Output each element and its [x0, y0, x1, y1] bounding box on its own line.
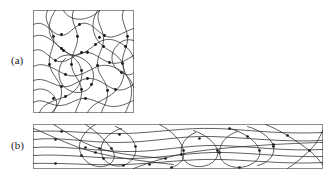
crosslink-node [170, 166, 173, 169]
crosslink-node [216, 149, 219, 152]
crosslink-node [86, 51, 89, 54]
crosslink-node [84, 97, 87, 100]
crosslink-node [60, 130, 63, 133]
crosslink-node [164, 157, 167, 160]
crosslink-node [64, 73, 67, 76]
crosslink-node [96, 64, 99, 67]
crosslink-node [52, 97, 55, 100]
crosslink-node [60, 85, 63, 88]
crosslink-node [94, 43, 97, 46]
crosslink-node [110, 147, 113, 150]
crosslink-node [54, 59, 57, 62]
crosslink-node [52, 35, 55, 38]
crosslink-node [182, 149, 185, 152]
figure-root: (a) (b) [0, 0, 333, 178]
crosslink-node [80, 69, 83, 72]
crosslink-node [198, 137, 201, 140]
crosslink-node [80, 51, 83, 54]
crosslink-node [238, 166, 241, 169]
crosslink-node [103, 34, 106, 37]
crosslink-node [124, 45, 127, 48]
crosslink-node [102, 157, 105, 160]
crosslink-node [80, 88, 83, 91]
crosslink-node [120, 71, 123, 74]
crosslink-node [108, 61, 111, 64]
crosslink-node [60, 47, 63, 50]
crosslink-node [60, 33, 63, 36]
crosslink-node [118, 133, 121, 136]
crosslink-node [121, 62, 124, 65]
crosslink-node [102, 45, 105, 48]
crosslink-node [86, 77, 89, 80]
crosslink-node [84, 146, 87, 149]
crosslink-node [126, 35, 129, 38]
crosslink-node [180, 153, 183, 156]
crosslink-node [54, 162, 57, 165]
crosslink-node [94, 151, 97, 154]
crosslink-node [64, 95, 67, 98]
panel-b-label: (b) [11, 140, 24, 151]
crosslink-node [106, 89, 109, 92]
panel-a-network-plot [33, 10, 134, 113]
crosslink-node [218, 151, 221, 154]
crosslink-node [122, 164, 125, 167]
crosslink-node [228, 127, 231, 130]
crosslink-node [78, 23, 81, 26]
crosslink-node [98, 147, 101, 150]
crosslink-node [308, 149, 311, 152]
crosslink-node [148, 163, 151, 166]
crosslink-node [90, 83, 93, 86]
crosslink-node [258, 149, 261, 152]
crosslink-node [80, 154, 83, 157]
crosslink-node [286, 134, 289, 137]
crosslink-node [246, 135, 249, 138]
panel-b-network-plot [33, 124, 323, 169]
crosslink-node [98, 36, 101, 39]
crosslink-node [70, 63, 73, 66]
crosslink-node [76, 35, 79, 38]
crosslink-node [114, 88, 117, 91]
crosslink-node [54, 138, 57, 141]
crosslink-node [272, 145, 275, 148]
crosslink-node [48, 63, 51, 66]
crosslink-node [134, 145, 137, 148]
panel-a-label: (a) [11, 55, 23, 66]
